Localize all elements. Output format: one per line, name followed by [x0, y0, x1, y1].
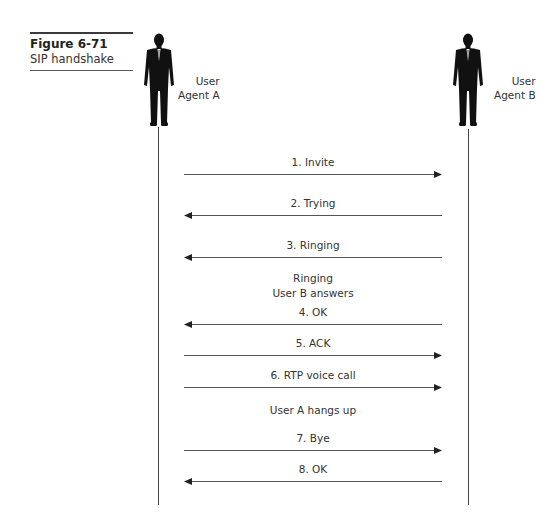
agent-b-label: User Agent B	[494, 74, 536, 102]
arrow-right-icon	[184, 447, 442, 454]
arrow-right-icon	[184, 171, 442, 178]
person-silhouette-icon	[142, 33, 176, 127]
message-label: 4. OK	[184, 306, 442, 319]
agent-a-lifeline	[158, 127, 159, 505]
message-label: 6. RTP voice call	[184, 369, 442, 382]
message-label: 3. Ringing	[184, 239, 442, 252]
caption-top-rule	[30, 32, 133, 34]
arrow-left-icon	[184, 254, 442, 261]
agent-a-label: User Agent A	[178, 74, 220, 102]
figure-number: Figure 6-71	[30, 37, 133, 52]
person-silhouette-icon	[451, 33, 485, 127]
arrow-left-icon	[184, 212, 442, 219]
message-label: 1. Invite	[184, 156, 442, 169]
note-user-a-hangs-up: User A hangs up	[184, 403, 442, 418]
message-label: 7. Bye	[184, 432, 442, 445]
agent-b-lifeline	[468, 129, 469, 505]
figure-caption: Figure 6-71 SIP handshake	[30, 32, 133, 71]
agent-a-label-line1: User	[178, 74, 220, 88]
message-label: 5. ACK	[184, 337, 442, 350]
arrow-right-icon	[184, 352, 442, 359]
arrow-left-icon	[184, 478, 442, 485]
agent-b-label-line2: Agent B	[494, 88, 536, 102]
caption-bottom-rule	[30, 70, 133, 71]
note-line1: User A hangs up	[184, 403, 442, 418]
agent-b-label-line1: User	[494, 74, 536, 88]
arrow-right-icon	[184, 384, 442, 391]
message-label: 2. Trying	[184, 197, 442, 210]
note-line2: User B answers	[184, 286, 442, 301]
note-line1: Ringing	[184, 271, 442, 286]
message-label: 8. OK	[184, 463, 442, 476]
agent-a-label-line2: Agent A	[178, 88, 220, 102]
figure-title: SIP handshake	[30, 52, 133, 66]
arrow-left-icon	[184, 321, 442, 328]
note-user-b-answers: Ringing User B answers	[184, 271, 442, 301]
